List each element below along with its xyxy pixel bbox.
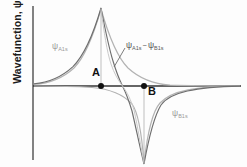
curve-label-psi-difference: ψA1s−ψB1s — [126, 40, 163, 50]
nucleus-a-label: A — [92, 66, 100, 78]
curve-label-psi-a1s: ψA1s — [52, 41, 68, 51]
psi-subscript-b: B1s — [178, 113, 187, 119]
wavefunction-figure: Wavefunction, ψ A B ψA1s ψB1s ψA1s−ψB1s — [0, 0, 247, 167]
y-axis-label: Wavefunction, ψ — [11, 0, 23, 107]
leader-line-difference-label — [114, 48, 125, 67]
psi-subscript-diff-1: A1s — [132, 45, 141, 51]
point-marker-a — [98, 83, 104, 89]
curve-label-psi-b1s: ψB1s — [172, 108, 188, 118]
psi-subscript-diff-2: B1s — [154, 45, 163, 51]
plot-canvas — [0, 0, 247, 167]
psi-subscript-a: A1s — [58, 46, 67, 52]
point-marker-b — [141, 83, 147, 89]
nucleus-b-label: B — [148, 85, 156, 97]
